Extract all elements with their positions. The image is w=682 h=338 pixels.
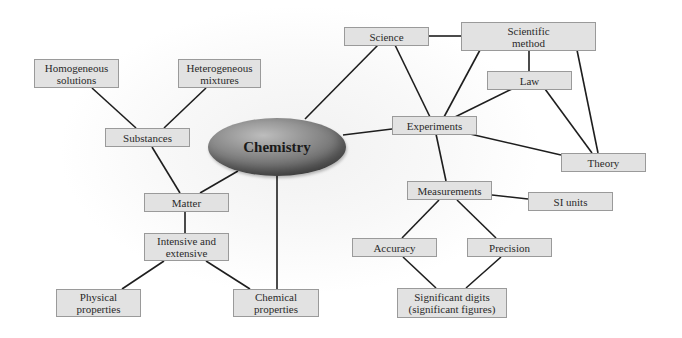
- node-label: SI units: [554, 196, 588, 208]
- edge-chemistry-science: [305, 45, 378, 119]
- edge-science-experiments: [395, 45, 430, 117]
- node-precision[interactable]: Precision: [467, 238, 552, 257]
- node-label: Scientific method: [507, 25, 549, 49]
- edge-precision-significant: [466, 257, 501, 288]
- edge-law-experiments: [455, 89, 512, 117]
- node-label: Matter: [172, 197, 201, 209]
- edge-measurements-accuracy: [402, 200, 439, 238]
- edge-intensive-chemical: [206, 261, 250, 289]
- edge-measurements-precision: [457, 200, 496, 238]
- node-measurements[interactable]: Measurements: [407, 181, 492, 200]
- node-intensive-extensive[interactable]: Intensive and extensive: [144, 233, 229, 261]
- node-significant-digits[interactable]: Significant digits (significant figures): [397, 288, 507, 318]
- node-theory[interactable]: Theory: [561, 153, 646, 172]
- node-si-units[interactable]: SI units: [528, 192, 613, 211]
- node-matter[interactable]: Matter: [144, 193, 229, 212]
- edge-experiments-measurements: [436, 134, 446, 181]
- node-label: Homogeneous solutions: [45, 62, 109, 86]
- node-label: Significant digits (significant figures): [408, 291, 495, 315]
- node-label: Precision: [489, 242, 530, 254]
- edge-chemistry-experiments: [343, 129, 392, 135]
- node-label: Law: [520, 75, 540, 87]
- edge-intensive-physical: [122, 261, 164, 289]
- edge-heterogeneous-substances: [164, 88, 206, 128]
- node-label: Science: [369, 31, 403, 43]
- node-law[interactable]: Law: [487, 71, 572, 90]
- node-label: Accuracy: [373, 242, 415, 254]
- node-chemical-properties[interactable]: Chemical properties: [233, 289, 319, 317]
- edge-experiments-theory: [470, 134, 561, 155]
- node-label: Physical properties: [77, 291, 121, 315]
- node-accuracy[interactable]: Accuracy: [352, 238, 437, 257]
- concept-map-canvas: Chemistry Homogeneous solutions Heteroge…: [0, 0, 682, 338]
- node-physical-properties[interactable]: Physical properties: [56, 289, 141, 317]
- edge-substances-matter: [152, 147, 180, 193]
- edge-chemistry-matter: [200, 171, 238, 193]
- node-science[interactable]: Science: [344, 27, 429, 46]
- node-label: Heterogeneous mixtures: [187, 62, 253, 86]
- node-scientific-method[interactable]: Scientific method: [461, 22, 596, 51]
- node-substances[interactable]: Substances: [105, 128, 190, 147]
- edge-accuracy-significant: [403, 257, 436, 288]
- node-label: Substances: [123, 132, 172, 144]
- node-homogeneous-solutions[interactable]: Homogeneous solutions: [34, 59, 119, 88]
- node-heterogeneous-mixtures[interactable]: Heterogeneous mixtures: [178, 59, 261, 88]
- edge-law-theory: [545, 89, 592, 153]
- central-node-chemistry[interactable]: Chemistry: [208, 118, 346, 176]
- node-label: Theory: [588, 157, 620, 169]
- node-label: Chemical properties: [254, 291, 298, 315]
- node-label: Intensive and extensive: [157, 235, 216, 259]
- edge-measurements-si-units: [492, 195, 528, 199]
- edge-homogeneous-substances: [92, 88, 136, 128]
- node-label: Experiments: [407, 120, 463, 132]
- central-node-label: Chemistry: [243, 139, 311, 156]
- node-experiments[interactable]: Experiments: [392, 116, 477, 135]
- node-label: Measurements: [417, 185, 481, 197]
